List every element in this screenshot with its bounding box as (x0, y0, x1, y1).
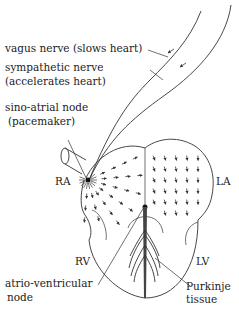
conduction-arrow-icon (187, 211, 188, 216)
purkinje-leader (155, 258, 190, 286)
label-sa-node: sino-atrial node (5, 101, 88, 113)
conduction-arrow-icon (103, 201, 106, 205)
label-av-node: atrio-ventricular (5, 277, 93, 289)
conduction-arrow-icon (129, 208, 133, 211)
conduction-arrow-icon (187, 178, 188, 183)
conduction-arrow-icon (133, 157, 138, 159)
label-ra: RA (55, 175, 71, 187)
conduction-arrow-icon (124, 190, 129, 191)
conduction-arrow-icon (153, 167, 155, 172)
label-av-node-desc: node (7, 291, 33, 303)
sa-node (86, 178, 91, 183)
conduction-arrow-icon (164, 167, 166, 172)
conduction-arrow-icon (175, 200, 176, 205)
conduction-arrow-icon (187, 156, 188, 161)
conduction-arrow-icon (164, 200, 166, 205)
label-sympathetic-nerve-desc: (accelerates heart) (5, 75, 106, 87)
conduction-arrow-icon (136, 193, 141, 194)
conduction-arrow-icon (187, 167, 188, 172)
conduction-arrow-icon (153, 189, 155, 194)
conduction-arrow-icon (164, 178, 166, 183)
conduction-arrow-icon (91, 193, 92, 198)
conduction-arrow-icon (175, 211, 176, 216)
conduction-arrow-icon (109, 195, 113, 198)
label-sympathetic-nerve: sympathetic nerve (5, 61, 103, 73)
sa-ray (86, 183, 87, 189)
conduction-arrow-icon (122, 162, 127, 164)
conduction-arrow-icon (96, 191, 99, 195)
label-lv: LV (196, 255, 210, 267)
atrial-conduction-arrows (84, 156, 198, 225)
conduction-arrow-icon (99, 188, 103, 191)
conduction-arrow-icon (187, 200, 188, 205)
sa-ray (89, 183, 90, 189)
sympathetic-nerve (89, 5, 231, 180)
conduction-arrow-icon (153, 178, 155, 183)
conduction-arrow-icon (113, 187, 118, 188)
conduction-arrow-icon (111, 167, 116, 169)
conduction-arrow-icon (116, 221, 119, 225)
label-purkinje: Purkinje (186, 280, 231, 292)
conduction-arrow-icon (110, 211, 113, 215)
label-vagus-nerve: vagus nerve (slows heart) (4, 42, 142, 54)
conduction-arrow-icon (119, 202, 123, 205)
conduction-arrow-icon (175, 167, 176, 172)
heart-conduction-diagram: vagus nerve (slows heart) sympathetic ne… (0, 0, 239, 315)
label-la: LA (216, 175, 231, 187)
conduction-arrow-icon (100, 172, 105, 174)
label-sa-node-desc: (pacemaker) (8, 115, 75, 127)
label-purkinje-desc: tissue (186, 293, 217, 305)
sa-ray (80, 177, 86, 179)
conduction-arrow-icon (95, 205, 96, 210)
conduction-arrow-icon (153, 200, 155, 205)
conduction-arrow-icon (153, 156, 155, 161)
conduction-arrow-icon (101, 183, 106, 184)
vagus-arrow-icon (168, 49, 174, 53)
conduction-arrow-icon (98, 216, 99, 221)
conduction-arrow-icon (164, 156, 166, 161)
sa-leader (68, 140, 87, 180)
conduction-arrow-icon (175, 156, 176, 161)
conduction-arrow-icon (164, 189, 166, 194)
conduction-arrow-icon (175, 178, 176, 183)
conduction-arrow-icon (187, 189, 188, 194)
conduction-arrow-icon (175, 189, 176, 194)
label-rv: RV (75, 255, 91, 267)
vagus-leader (148, 50, 168, 57)
heart-outline (81, 139, 213, 298)
conduction-arrow-icon (164, 211, 166, 216)
sympathetic-arrow-icon (180, 63, 186, 67)
